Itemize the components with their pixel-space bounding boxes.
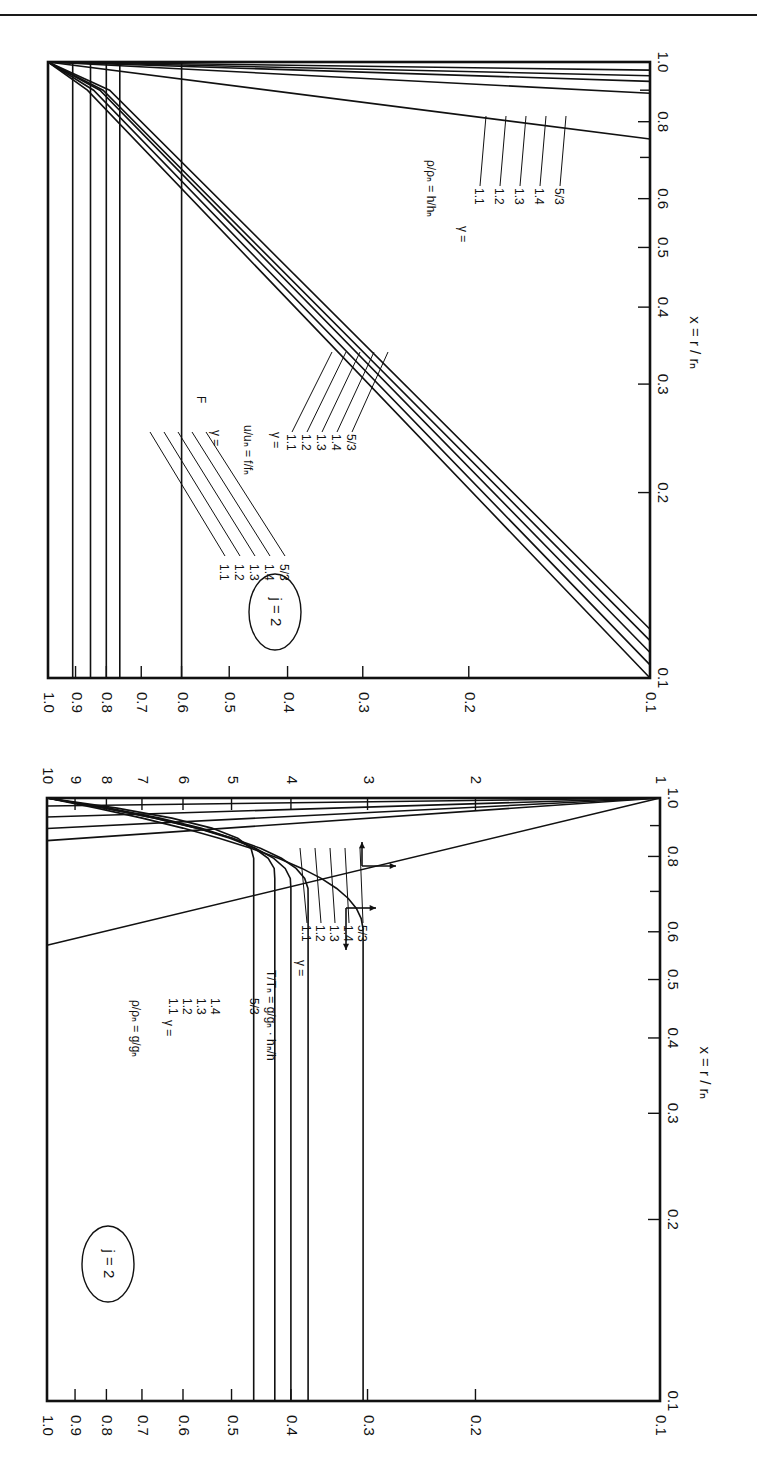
chart-panel-bottom: 0.10.20.30.40.50.60.81.0x = r / rₙ0.10.2… xyxy=(40,767,714,1436)
leader-line xyxy=(192,432,270,556)
y-tick-label: 0.5 xyxy=(222,692,239,713)
y-tick-label: 0.2 xyxy=(462,692,479,713)
x-tick-label: 1.0 xyxy=(655,52,672,73)
legend-gamma-label: γ = xyxy=(456,226,470,242)
arrowhead-icon xyxy=(390,863,396,869)
y-tick-label: 0.7 xyxy=(134,692,151,713)
legend-gamma-value: 1.2 xyxy=(313,925,327,942)
y-upper-tick-label: 7 xyxy=(135,776,152,784)
x-tick-label: 0.8 xyxy=(655,111,672,132)
legend-gamma-value: 1.2 xyxy=(180,998,194,1015)
y-tick-label: 0.8 xyxy=(99,1415,116,1436)
legend-gamma-value: 5/3 xyxy=(344,434,358,451)
y-tick-label: 0.2 xyxy=(468,1415,485,1436)
y-tick-label: 0.9 xyxy=(68,1415,85,1436)
y-tick-label: 0.8 xyxy=(99,692,116,713)
leader-line xyxy=(560,116,566,186)
legend-gamma-value: 5/3 xyxy=(552,188,566,205)
y-upper-tick-label: 9 xyxy=(68,776,85,784)
legend-gamma-value: 1.1 xyxy=(284,434,298,451)
legend-gamma-value: 1.3 xyxy=(247,564,261,581)
plot-frame xyxy=(47,798,660,1401)
series-line xyxy=(47,798,660,817)
legend-gamma-value: 1.1 xyxy=(472,188,486,205)
series-line xyxy=(48,62,650,678)
legend-T-label: T/Tₙ = g/gₙ · hₙ/h xyxy=(264,970,278,1061)
y-tick-label: 0.6 xyxy=(176,1415,193,1436)
x-tick-label: 0.1 xyxy=(665,1391,682,1412)
x-tick-label: 0.4 xyxy=(665,1028,682,1049)
legend-gamma-value: 1.4 xyxy=(262,564,276,581)
y-tick-label: 0.6 xyxy=(175,692,192,713)
legend-gamma-value: 1.1 xyxy=(299,925,313,942)
leader-line xyxy=(480,116,486,186)
legend-gamma-value: 1.1 xyxy=(166,998,180,1015)
x-tick-label: 1.0 xyxy=(665,788,682,809)
leader-line xyxy=(520,116,526,186)
y-tick-label: 0.1 xyxy=(643,692,660,713)
leader-line xyxy=(500,116,506,186)
figure-canvas: 0.10.20.30.40.50.60.81.0x = r / rₙ0.10.2… xyxy=(0,0,757,1468)
arrowhead-icon xyxy=(359,842,365,848)
x-tick-label: 0.6 xyxy=(655,188,672,209)
legend-gamma-value: 5/3 xyxy=(355,925,369,942)
x-tick-label: 0.2 xyxy=(665,1209,682,1230)
x-tick-label: 0.3 xyxy=(665,1103,682,1124)
series-line xyxy=(47,798,254,1401)
leader-line xyxy=(337,352,374,432)
legend-gamma-value: 1.2 xyxy=(299,434,313,451)
series-line xyxy=(47,798,308,1401)
plot-frame xyxy=(48,62,650,678)
legend-gamma-value: 1.3 xyxy=(194,998,208,1015)
legend-gamma-label: γ = xyxy=(162,1020,176,1036)
leader-line xyxy=(164,432,240,556)
y-tick-label: 1.0 xyxy=(41,692,58,713)
series-line xyxy=(47,798,275,1401)
x-tick-label: 0.2 xyxy=(655,482,672,503)
leader-line xyxy=(300,848,307,923)
y-upper-tick-label: 5 xyxy=(225,776,242,784)
y-upper-tick-label: 1 xyxy=(653,776,670,784)
x-tick-label: 0.5 xyxy=(665,969,682,990)
j-annotation-label: j = 2 xyxy=(101,1249,118,1279)
leader-line xyxy=(352,352,388,432)
legend-rho-label: ρ/ρₙ = g/gₙ xyxy=(129,1000,143,1057)
x-tick-label: 0.1 xyxy=(655,668,672,689)
legend-gamma-value: 1.2 xyxy=(492,188,506,205)
legend-u-label: u/uₙ = f/fₙ xyxy=(241,425,255,475)
j-annotation-label: j = 2 xyxy=(268,597,285,627)
y-tick-label: 0.3 xyxy=(356,692,373,713)
y-upper-tick-label: 8 xyxy=(99,776,116,784)
legend-gamma-value: 1.4 xyxy=(208,998,222,1015)
x-tick-label: 0.6 xyxy=(665,921,682,942)
legend-gamma-label: γ = xyxy=(209,430,223,446)
y-tick-label: 0.9 xyxy=(69,692,86,713)
legend-gamma-value: 1.4 xyxy=(532,188,546,205)
legend-gamma-value: 1.1 xyxy=(217,564,231,581)
arrowhead-icon xyxy=(370,905,376,911)
x-axis-label: x = r / rₙ xyxy=(697,1046,714,1099)
x-axis-label: x = r / rₙ xyxy=(687,316,704,369)
x-tick-label: 0.5 xyxy=(655,237,672,258)
y-upper-tick-label: 4 xyxy=(284,776,301,784)
x-tick-label: 0.4 xyxy=(655,297,672,318)
legend-gamma-label: γ = xyxy=(294,960,308,976)
legend-gamma-value: 1.3 xyxy=(314,434,328,451)
leader-line xyxy=(322,352,360,432)
legend-F-label: F xyxy=(194,396,208,403)
leader-line xyxy=(150,432,225,556)
y-tick-label: 0.4 xyxy=(284,1415,301,1436)
series-line xyxy=(47,798,363,1401)
legend-gamma-value: 1.3 xyxy=(327,925,341,942)
y-upper-tick-label: 3 xyxy=(361,776,378,784)
chart-panel-top: 0.10.20.30.40.50.60.81.0x = r / rₙ0.10.2… xyxy=(41,52,704,713)
legend-gamma-value: 1.2 xyxy=(232,564,246,581)
series-line xyxy=(48,62,650,641)
arrowhead-icon xyxy=(343,944,349,950)
legend-gamma-value: 1.4 xyxy=(341,925,355,942)
y-tick-label: 0.3 xyxy=(361,1415,378,1436)
y-upper-tick-label: 2 xyxy=(468,776,485,784)
series-line xyxy=(48,62,650,653)
leader-line xyxy=(315,848,321,923)
y-tick-label: 0.1 xyxy=(653,1415,670,1436)
